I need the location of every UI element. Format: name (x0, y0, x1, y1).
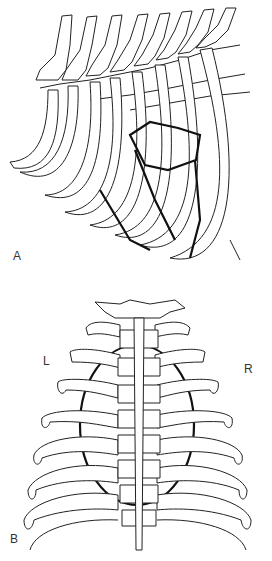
lateral-ribcage-drawing (0, 0, 272, 280)
dorsal-spine-drawing (0, 280, 272, 561)
left-ribs (24, 322, 120, 550)
panel-label-a: A (13, 249, 21, 263)
panel-a-lateral-ribcage: A (0, 0, 272, 280)
panel-b-dorsal-spine: L R B (0, 280, 272, 561)
right-ribs (155, 322, 251, 550)
panel-label-b: B (10, 532, 18, 546)
side-label-left: L (43, 354, 50, 368)
side-label-right: R (244, 362, 253, 376)
